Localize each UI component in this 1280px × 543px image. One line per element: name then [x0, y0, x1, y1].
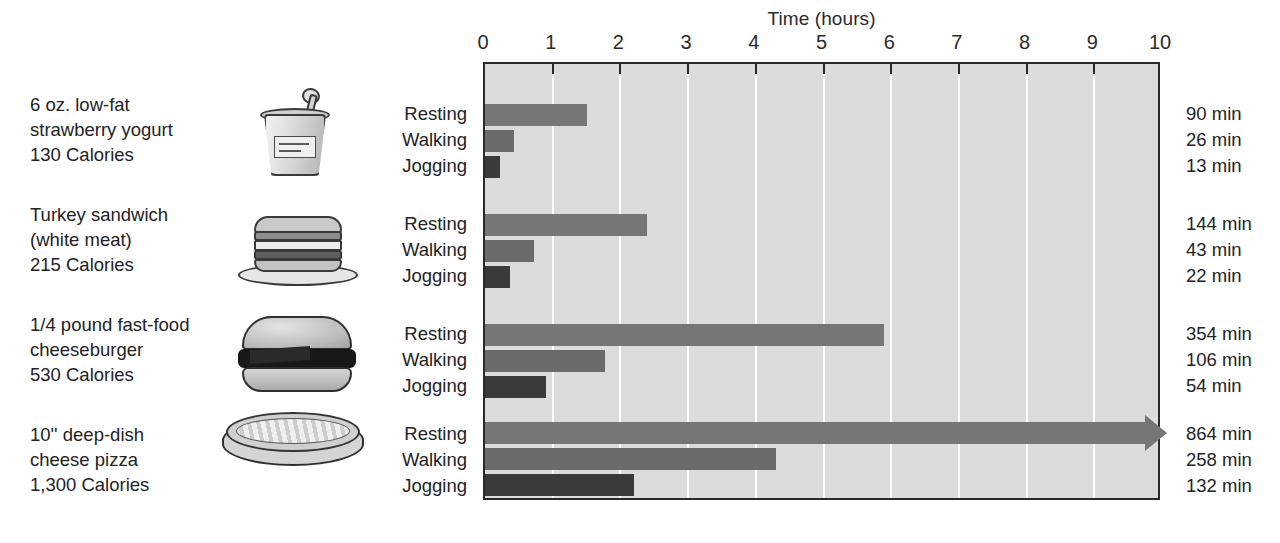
- yogurt-cup-icon: [236, 88, 354, 184]
- food-label-pizza: 10'' deep-dishcheese pizza1,300 Calories: [30, 422, 235, 497]
- minutes-value: 54 min: [1186, 373, 1272, 399]
- activity-labels-group-4: RestingWalkingJogging: [355, 421, 467, 499]
- x-tick-label-7: 7: [951, 31, 962, 54]
- food-name-line: (white meat): [30, 227, 235, 252]
- minutes-value: 13 min: [1186, 153, 1272, 179]
- tick-mark-6: [890, 62, 892, 74]
- activity-label-jogging: Jogging: [355, 263, 467, 289]
- bar-walking-group-2: [485, 240, 534, 262]
- minutes-value: 90 min: [1186, 101, 1272, 127]
- cup-label: [274, 136, 316, 158]
- minutes-value: 258 min: [1186, 447, 1272, 473]
- bun-top: [242, 316, 352, 350]
- minutes-value: 864 min: [1186, 421, 1272, 447]
- food-label-cheeseburger: 1/4 pound fast-foodcheeseburger530 Calor…: [30, 312, 235, 387]
- bun-bottom: [242, 367, 352, 392]
- sandwich-icon: [236, 208, 354, 288]
- food-name-line: 10'' deep-dish: [30, 422, 235, 447]
- bar-walking-group-1: [485, 130, 514, 152]
- minutes-labels-group-1: 90 min26 min13 min: [1186, 101, 1272, 179]
- minutes-value: 132 min: [1186, 473, 1272, 499]
- minutes-value: 144 min: [1186, 211, 1272, 237]
- x-tick-label-10: 10: [1149, 31, 1171, 54]
- bar-resting-group-3: [485, 324, 884, 346]
- food-name-line: 1/4 pound fast-food: [30, 312, 235, 337]
- x-tick-label-8: 8: [1019, 31, 1030, 54]
- minutes-value: 106 min: [1186, 347, 1272, 373]
- food-name-line: 6 oz. low-fat: [30, 92, 235, 117]
- food-name-line: 530 Calories: [30, 362, 235, 387]
- food-name-line: 130 Calories: [30, 142, 235, 167]
- x-tick-label-6: 6: [884, 31, 895, 54]
- food-label-sandwich: Turkey sandwich(white meat)215 Calories: [30, 202, 235, 277]
- activity-label-walking: Walking: [355, 347, 467, 373]
- activity-label-jogging: Jogging: [355, 373, 467, 399]
- food-label-yogurt: 6 oz. low-fatstrawberry yogurt130 Calori…: [30, 92, 235, 167]
- tick-mark-3: [687, 62, 689, 74]
- x-tick-label-1: 1: [545, 31, 556, 54]
- minutes-value: 22 min: [1186, 263, 1272, 289]
- x-axis-tick-labels: 012345678910: [0, 31, 1280, 57]
- food-name-line: Turkey sandwich: [30, 202, 235, 227]
- activity-label-jogging: Jogging: [355, 473, 467, 499]
- minutes-value: 354 min: [1186, 321, 1272, 347]
- activity-label-resting: Resting: [355, 211, 467, 237]
- x-tick-label-2: 2: [613, 31, 624, 54]
- x-tick-label-0: 0: [477, 31, 488, 54]
- minutes-value: 43 min: [1186, 237, 1272, 263]
- bar-resting-group-4: [485, 422, 1146, 444]
- activity-label-resting: Resting: [355, 421, 467, 447]
- minutes-labels-group-2: 144 min43 min22 min: [1186, 211, 1272, 289]
- tick-mark-7: [958, 62, 960, 74]
- tick-mark-5: [823, 62, 825, 74]
- activity-label-resting: Resting: [355, 321, 467, 347]
- activity-label-walking: Walking: [355, 447, 467, 473]
- food-name-line: 1,300 Calories: [30, 472, 235, 497]
- bar-jogging-group-1: [485, 156, 500, 178]
- food-name-line: 215 Calories: [30, 252, 235, 277]
- x-tick-label-9: 9: [1087, 31, 1098, 54]
- bar-resting-group-2: [485, 214, 647, 236]
- bar-overflow-arrow-group-4: [1145, 415, 1167, 451]
- plot-area: [483, 62, 1160, 500]
- tick-mark-1: [552, 62, 554, 74]
- minutes-value: 26 min: [1186, 127, 1272, 153]
- pizza-icon: [222, 408, 372, 472]
- activity-label-walking: Walking: [355, 127, 467, 153]
- bar-walking-group-3: [485, 350, 605, 372]
- tick-mark-4: [755, 62, 757, 74]
- activity-label-resting: Resting: [355, 101, 467, 127]
- x-tick-label-4: 4: [748, 31, 759, 54]
- bar-jogging-group-4: [485, 474, 634, 496]
- bar-jogging-group-2: [485, 266, 510, 288]
- bar-jogging-group-3: [485, 376, 546, 398]
- pizza-cheese: [236, 418, 350, 444]
- bread-bottom: [254, 259, 342, 272]
- activity-label-jogging: Jogging: [355, 153, 467, 179]
- x-tick-label-3: 3: [681, 31, 692, 54]
- activity-labels-group-2: RestingWalkingJogging: [355, 211, 467, 289]
- activity-label-walking: Walking: [355, 237, 467, 263]
- food-name-line: cheese pizza: [30, 447, 235, 472]
- minutes-labels-group-3: 354 min106 min54 min: [1186, 321, 1272, 399]
- activity-labels-group-1: RestingWalkingJogging: [355, 101, 467, 179]
- axis-title: Time (hours): [483, 8, 1160, 30]
- tick-mark-2: [619, 62, 621, 74]
- food-name-line: strawberry yogurt: [30, 117, 235, 142]
- cheeseburger-icon: [236, 312, 354, 396]
- chart-page: Time (hours) 012345678910 6 oz. low-fats…: [0, 0, 1280, 543]
- x-tick-label-5: 5: [816, 31, 827, 54]
- tick-mark-8: [1026, 62, 1028, 74]
- activity-labels-group-3: RestingWalkingJogging: [355, 321, 467, 399]
- food-name-line: cheeseburger: [30, 337, 235, 362]
- bar-resting-group-1: [485, 104, 587, 126]
- bar-walking-group-4: [485, 448, 776, 470]
- minutes-labels-group-4: 864 min258 min132 min: [1186, 421, 1272, 499]
- tick-mark-9: [1093, 62, 1095, 74]
